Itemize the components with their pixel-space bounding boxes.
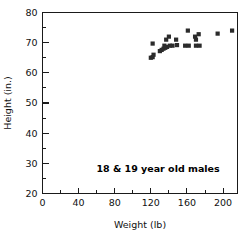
data-point — [197, 32, 201, 36]
x-tick-label: 200 — [214, 197, 232, 208]
data-point — [194, 38, 198, 42]
data-point — [170, 44, 174, 48]
y-tick-label: 30 — [25, 158, 37, 169]
data-point — [151, 53, 155, 57]
y-tick-label: 70 — [25, 37, 37, 48]
data-point — [230, 29, 234, 33]
data-point — [175, 43, 179, 47]
x-tick-label: 80 — [109, 197, 121, 208]
data-point — [186, 29, 190, 33]
x-tick-label: 160 — [178, 197, 196, 208]
x-tick-label: 0 — [39, 197, 45, 208]
data-point — [194, 44, 198, 48]
y-axis-ticks — [43, 13, 49, 194]
data-point — [167, 35, 171, 39]
x-tick-label: 120 — [142, 197, 160, 208]
data-point-markers — [149, 29, 234, 60]
y-axis-tick-labels: 20304050607080 — [25, 7, 37, 199]
data-point — [174, 38, 178, 42]
chart-canvas: 04080120160200 20304050607080 18 & 19 ye… — [0, 0, 248, 233]
x-axis-tick-labels: 04080120160200 — [39, 197, 232, 208]
y-tick-label: 60 — [25, 67, 37, 78]
y-axis-title: Height (in.) — [2, 76, 13, 130]
y-tick-label: 20 — [25, 188, 37, 199]
x-axis-title: Weight (lb) — [114, 219, 166, 230]
chart-annotation-label: 18 & 19 year old males — [96, 163, 220, 174]
y-tick-label: 40 — [25, 128, 37, 139]
x-axis-ticks — [43, 188, 224, 194]
data-point — [197, 44, 201, 48]
data-point — [151, 41, 155, 45]
x-tick-label: 40 — [73, 197, 85, 208]
scatter-plot-figure: 04080120160200 20304050607080 18 & 19 ye… — [0, 0, 248, 233]
data-point — [187, 44, 191, 48]
chart-annotations: 18 & 19 year old males — [96, 163, 220, 174]
data-point — [216, 32, 220, 36]
y-tick-label: 50 — [25, 97, 37, 108]
y-tick-label: 80 — [25, 7, 37, 18]
data-point — [183, 44, 187, 48]
